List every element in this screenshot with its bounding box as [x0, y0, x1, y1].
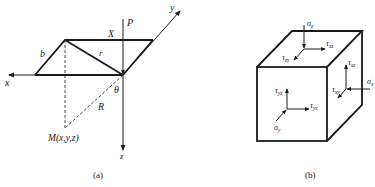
- r-label: r: [99, 48, 103, 58]
- sigma-x-label: σx: [367, 77, 374, 87]
- b-label: b: [40, 48, 45, 59]
- z-axis-label: z: [119, 151, 124, 161]
- x-dimension-label: X: [107, 28, 115, 39]
- r-distance-label: R: [97, 101, 104, 112]
- tau-yx-label: τyx: [310, 101, 318, 111]
- diagram-canvas: x y z P X b r θ R M(x,y,z) (a) σz τxz τz…: [0, 0, 375, 187]
- point-m-label: M(x,y,z): [47, 133, 79, 144]
- y-axis-label: y: [169, 2, 175, 13]
- sigma-z-label: σz: [307, 19, 314, 29]
- caption-a: (a): [93, 170, 103, 180]
- tau-yz-label: τyz: [275, 86, 283, 96]
- figure-a: x y z P X b r θ R M(x,y,z) (a): [4, 2, 180, 180]
- theta-label: θ: [114, 84, 119, 95]
- tau-xz-top-label: τxz: [326, 39, 334, 49]
- force-p-label: P: [126, 17, 133, 28]
- sigma-y-label: σy: [274, 123, 281, 133]
- x-axis-label: x: [4, 77, 10, 88]
- r-line: [65, 40, 123, 75]
- tau-xy-label: τxy: [332, 85, 340, 95]
- figure-b: σz τxz τzy τxz σx τxy τyz τyx σy (b): [257, 19, 374, 180]
- cube-front-face: [257, 67, 327, 141]
- sigma-y-arrow: [276, 110, 286, 121]
- tau-xz-right-label: τxz: [348, 58, 356, 68]
- caption-b: (b): [305, 170, 316, 180]
- r-distance-dashed: [65, 75, 123, 128]
- parallelogram-right-edge: [123, 40, 153, 75]
- tau-zy-label: τzy: [282, 53, 290, 63]
- tau-zy-arrow: [294, 49, 304, 60]
